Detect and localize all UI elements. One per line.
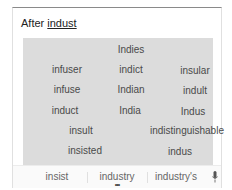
word-prediction-panel: After indust Indiesinfuserindictinsulari… xyxy=(12,7,222,188)
prompt-prefix: After xyxy=(21,17,44,29)
prediction-word[interactable]: Indus xyxy=(181,106,205,117)
prediction-word[interactable]: India xyxy=(119,105,141,116)
current-word[interactable]: indust xyxy=(47,17,76,29)
divider xyxy=(147,172,148,183)
prediction-word[interactable]: infuse xyxy=(54,84,81,95)
prediction-word[interactable]: indult xyxy=(183,85,207,96)
prediction-word[interactable]: indict xyxy=(119,64,142,75)
microphone-icon[interactable] xyxy=(212,171,218,183)
prediction-word[interactable]: indistinguishable xyxy=(150,125,224,136)
prediction-word[interactable]: insult xyxy=(69,125,92,136)
prompt-heading: After indust xyxy=(21,17,77,29)
prediction-word[interactable]: Indian xyxy=(117,84,144,95)
prediction-word[interactable]: indus xyxy=(168,146,192,157)
prediction-word[interactable]: insisted xyxy=(68,145,102,156)
suggestion-bar: insist industry industry's ••• xyxy=(13,165,221,188)
more-indicator[interactable]: ••• xyxy=(115,183,119,187)
prediction-word[interactable]: induct xyxy=(52,105,79,116)
prediction-word[interactable]: Indies xyxy=(118,44,145,55)
prediction-word[interactable]: infuser xyxy=(52,64,82,75)
suggestion-insist[interactable]: insist xyxy=(46,171,69,182)
suggestion-industrys[interactable]: industry's xyxy=(155,171,197,182)
divider xyxy=(87,172,88,183)
prediction-word[interactable]: insular xyxy=(180,65,209,76)
predictions-grid: IndiesinfuserindictinsularinfuseIndianin… xyxy=(23,38,213,166)
